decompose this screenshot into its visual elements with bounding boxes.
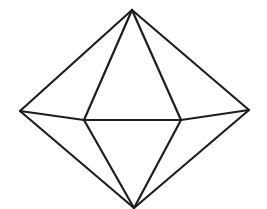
edge-front_left-bottom <box>84 120 134 208</box>
edge-top-front_right <box>132 10 181 120</box>
edge-top-front_left <box>84 10 132 120</box>
edge-top-left <box>20 10 132 111</box>
diagram-canvas <box>0 0 267 209</box>
octahedron-edges <box>20 10 249 208</box>
edge-top-right <box>132 10 249 110</box>
octahedron-figure <box>0 0 267 209</box>
edge-right-bottom <box>134 110 249 208</box>
edge-front_right-bottom <box>134 120 181 208</box>
edge-left-bottom <box>20 111 134 208</box>
